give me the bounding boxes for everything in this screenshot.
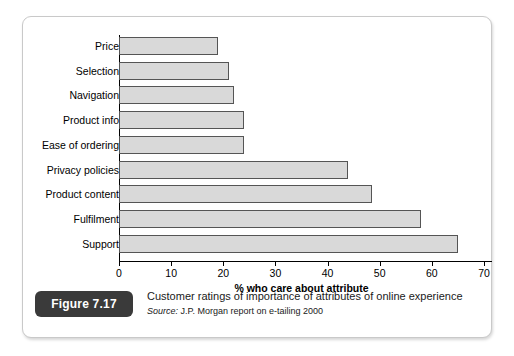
bar bbox=[119, 185, 372, 203]
bar bbox=[119, 62, 229, 80]
category-label: Privacy policies bbox=[25, 161, 119, 179]
caption-title: Customer ratings of importance of attrib… bbox=[147, 289, 481, 304]
bar bbox=[119, 111, 244, 129]
figure-number-badge: Figure 7.17 bbox=[35, 291, 133, 317]
x-axis-tick bbox=[171, 262, 172, 266]
category-label: Price bbox=[25, 37, 119, 55]
x-axis-tick bbox=[275, 262, 276, 266]
bar bbox=[119, 210, 421, 228]
x-axis-tick-label: 60 bbox=[426, 267, 438, 279]
x-axis-tick bbox=[223, 262, 224, 266]
caption-source-text: J.P. Morgan report on e-tailing 2000 bbox=[181, 306, 323, 316]
bar bbox=[119, 161, 348, 179]
x-axis-tick-label: 0 bbox=[116, 267, 122, 279]
x-axis-tick-label: 50 bbox=[374, 267, 386, 279]
x-axis-tick-label: 20 bbox=[217, 267, 229, 279]
x-axis-tick bbox=[484, 262, 485, 266]
x-axis-tick bbox=[432, 262, 433, 266]
bar bbox=[119, 37, 218, 55]
category-axis-labels: PriceSelectionNavigationProduct infoEase… bbox=[23, 17, 119, 285]
caption-text-block: Customer ratings of importance of attrib… bbox=[147, 289, 481, 318]
figure-panel: PriceSelectionNavigationProduct infoEase… bbox=[22, 16, 492, 338]
category-label: Support bbox=[25, 235, 119, 253]
category-label: Navigation bbox=[25, 86, 119, 104]
x-axis-ticks: 010203040506070 bbox=[119, 262, 492, 282]
category-label: Ease of ordering bbox=[25, 136, 119, 154]
x-axis-tick-label: 70 bbox=[478, 267, 490, 279]
category-label: Product info bbox=[25, 111, 119, 129]
figure-caption: Figure 7.17 Customer ratings of importan… bbox=[23, 283, 491, 337]
x-axis-tick-label: 40 bbox=[322, 267, 334, 279]
caption-source: Source: J.P. Morgan report on e-tailing … bbox=[147, 305, 481, 318]
category-label: Product content bbox=[25, 185, 119, 203]
x-axis-tick-label: 10 bbox=[165, 267, 177, 279]
bars-container bbox=[119, 17, 484, 285]
x-axis-tick bbox=[119, 262, 120, 266]
x-axis-tick bbox=[328, 262, 329, 266]
x-axis-tick-label: 30 bbox=[270, 267, 282, 279]
x-axis-tick bbox=[380, 262, 381, 266]
bar bbox=[119, 235, 458, 253]
bar bbox=[119, 136, 244, 154]
category-label: Selection bbox=[25, 62, 119, 80]
chart-plot-area: PriceSelectionNavigationProduct infoEase… bbox=[23, 17, 493, 285]
caption-source-prefix: Source: bbox=[147, 306, 178, 316]
bar bbox=[119, 86, 234, 104]
category-label: Fulfilment bbox=[25, 210, 119, 228]
